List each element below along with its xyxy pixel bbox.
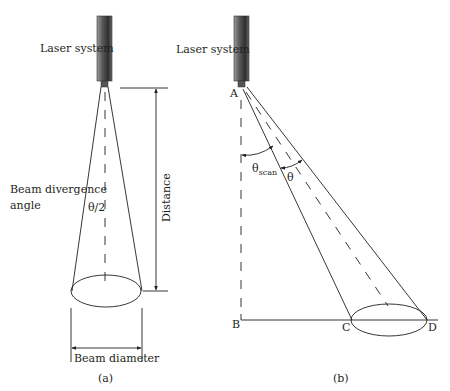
laser-system-label-b: Laser system <box>176 43 250 56</box>
point-a-label: A <box>229 87 239 100</box>
beam-diameter-label: Beam diameter <box>74 352 160 365</box>
laser-system-label-a: Laser system <box>40 42 114 55</box>
beam-edge-left-b <box>243 89 352 320</box>
laser-divergence-figure: Laser system Beam divergence angle θ/2 D… <box>0 0 450 391</box>
theta-scan-label: θscan <box>252 162 277 177</box>
theta-scan-arc <box>242 146 273 155</box>
beam-divergence-label-2: angle <box>10 199 41 212</box>
beam-spot-a <box>71 275 141 307</box>
panel-a: Laser system Beam divergence angle θ/2 D… <box>10 16 173 385</box>
point-d-label: D <box>428 321 437 334</box>
beam-divergence-label: Beam divergence <box>10 183 107 196</box>
caption-b: (b) <box>333 372 349 385</box>
half-angle-label: θ/2 <box>88 201 105 214</box>
theta-arc <box>281 160 302 168</box>
theta-label: θ <box>287 171 294 184</box>
point-b-label: B <box>232 318 240 331</box>
beam-edge-right-a <box>108 87 142 291</box>
distance-label: Distance <box>160 173 173 222</box>
beam-edge-right-b <box>247 87 427 320</box>
caption-a: (a) <box>98 372 113 385</box>
panel-b: Laser system A B C D θscan θ (b) <box>176 16 438 385</box>
point-c-label: C <box>342 321 350 334</box>
beam-axis-b <box>246 92 388 306</box>
